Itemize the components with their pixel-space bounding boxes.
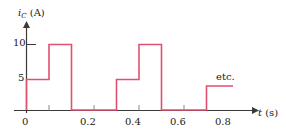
y-axis-label: iC (A) — [18, 8, 45, 20]
waveform-svg — [0, 0, 286, 139]
x-tick-label-0.6: 0.6 — [170, 117, 186, 127]
y-axis-subscript: C — [21, 12, 26, 20]
y-axis-arrow-icon — [23, 21, 30, 28]
x-tick-label-0.2: 0.2 — [80, 117, 96, 127]
x-tick-label-0.4: 0.4 — [125, 117, 141, 127]
y-axis-unit: (A) — [30, 7, 45, 18]
x-axis-symbol: t — [258, 107, 262, 118]
x-tick-label-0.8: 0.8 — [215, 117, 231, 127]
current-waveform-trace — [27, 45, 234, 111]
y-tick-label-5: 5 — [18, 73, 24, 83]
x-tick-label-0: 0 — [22, 117, 28, 127]
x-axis-unit: (s) — [265, 107, 278, 118]
capacitor-current-waveform-figure: iC (A) t (s) 10 5 0 0.2 0.4 0.6 0.8 etc. — [0, 0, 286, 139]
y-tick-label-10: 10 — [13, 38, 26, 48]
x-axis-label: t (s) — [258, 108, 278, 118]
etc-annotation: etc. — [216, 72, 235, 82]
